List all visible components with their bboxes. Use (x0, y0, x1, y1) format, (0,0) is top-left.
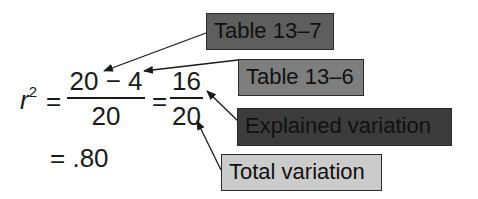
arrow-total-variation (197, 121, 221, 170)
callout-total-variation: Total variation (221, 154, 382, 191)
callout-explained-variation: Explained variation (237, 108, 452, 146)
callout-table-13-6: Table 13–6 (238, 59, 364, 96)
arrow-explained-variation (207, 91, 238, 121)
arrow-table-13-6 (144, 60, 238, 71)
callout-table-13-7: Table 13–7 (206, 13, 334, 50)
